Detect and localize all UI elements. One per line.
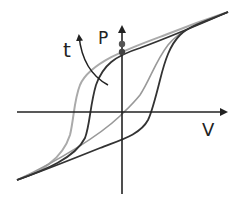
v-axis-label: V	[202, 121, 214, 139]
remanent-polarization-lower	[119, 49, 125, 55]
remanent-polarization-upper	[119, 41, 125, 47]
time-label: t	[63, 40, 71, 60]
hysteresis-diagram	[0, 0, 240, 202]
p-axis-label: P	[98, 30, 108, 47]
